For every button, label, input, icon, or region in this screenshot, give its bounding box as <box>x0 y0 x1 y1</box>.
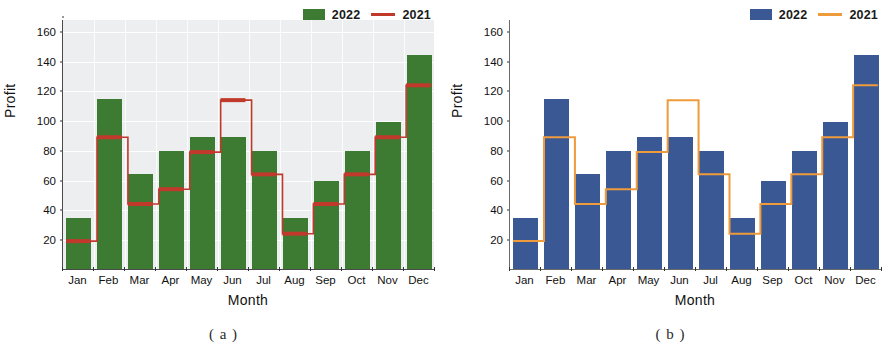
y-tick-label: 140 <box>484 56 503 68</box>
x-tick-mark <box>403 267 404 271</box>
x-tick-label: Apr <box>162 274 180 286</box>
x-tick-mark <box>819 267 820 271</box>
bar-series-2022 <box>510 20 881 269</box>
bar <box>283 218 308 269</box>
x-tick-mark <box>788 267 789 271</box>
x-tick-mark <box>540 267 541 271</box>
x-tick-label: Feb <box>546 274 566 286</box>
bar <box>823 122 848 269</box>
bar <box>221 137 246 269</box>
bar <box>376 122 401 269</box>
x-tick-mark <box>571 267 572 271</box>
x-axis-ticks: JanFebMarAprMayJunJulAugSepOctNovDec <box>509 272 881 292</box>
x-tick-mark <box>310 267 311 271</box>
bar <box>730 218 755 269</box>
y-tick-label: 60 <box>490 175 503 187</box>
y-tick-label: 80 <box>43 145 56 157</box>
x-tick-label: Oct <box>795 274 813 286</box>
y-tick-label: 120 <box>37 85 56 97</box>
x-tick-label: Mar <box>577 274 597 286</box>
y-tick-label: 20 <box>43 234 56 246</box>
x-tick-label: Jan <box>515 274 534 286</box>
x-tick-label: May <box>191 274 213 286</box>
x-tick-label: Jan <box>68 274 87 286</box>
y-tick-label: 160 <box>37 26 56 38</box>
x-tick-mark <box>372 267 373 271</box>
bar <box>637 137 662 269</box>
bar-series-2022 <box>63 20 434 269</box>
x-tick-mark <box>850 267 851 271</box>
x-tick-label: Sep <box>762 274 782 286</box>
x-tick-mark <box>757 267 758 271</box>
x-tick-label: Jul <box>703 274 718 286</box>
bar <box>513 218 538 269</box>
bar <box>792 151 817 269</box>
x-tick-label: Dec <box>408 274 428 286</box>
bar <box>699 151 724 269</box>
x-tick-mark <box>434 267 435 271</box>
y-axis-ticks: 20406080100120140160 <box>465 20 507 270</box>
x-tick-mark <box>881 267 882 271</box>
x-tick-mark <box>62 267 63 271</box>
x-tick-label: Dec <box>855 274 875 286</box>
bar <box>128 174 153 269</box>
bar <box>345 151 370 269</box>
x-tick-label: Jul <box>256 274 271 286</box>
x-tick-mark <box>124 267 125 271</box>
bar <box>761 181 786 269</box>
y-tick-label: 160 <box>484 26 503 38</box>
subfigure-caption-b: ( b ) <box>447 326 894 343</box>
x-tick-mark <box>726 267 727 271</box>
x-tick-label: Sep <box>315 274 335 286</box>
y-axis-label: Profit <box>449 84 465 118</box>
x-tick-label: Mar <box>130 274 150 286</box>
y-tick-label: 100 <box>37 115 56 127</box>
figure-container: 2022 2021 Profit 20406080100120140160 Ja… <box>0 0 894 361</box>
bar <box>854 55 879 269</box>
x-tick-mark <box>186 267 187 271</box>
x-tick-mark <box>664 267 665 271</box>
y-tick-label: 40 <box>43 204 56 216</box>
x-tick-mark <box>217 267 218 271</box>
y-tick-label: 20 <box>490 234 503 246</box>
x-tick-label: Nov <box>377 274 397 286</box>
x-tick-label: Jun <box>223 274 242 286</box>
x-tick-label: Aug <box>284 274 304 286</box>
y-tick-label: 80 <box>490 145 503 157</box>
y-tick-label: 140 <box>37 56 56 68</box>
bar <box>544 99 569 269</box>
bar <box>66 218 91 269</box>
subfigure-caption-a: ( a ) <box>0 326 447 343</box>
bar <box>668 137 693 269</box>
plot-area <box>62 20 434 270</box>
plot-area <box>509 20 881 270</box>
y-axis-ticks: 20406080100120140160 <box>18 20 60 270</box>
bar <box>575 174 600 269</box>
bar <box>159 151 184 269</box>
y-tick-label: 100 <box>484 115 503 127</box>
y-minor-tick-mark <box>62 17 64 18</box>
x-tick-mark <box>633 267 634 271</box>
x-tick-mark <box>248 267 249 271</box>
x-tick-mark <box>155 267 156 271</box>
x-tick-mark <box>602 267 603 271</box>
x-tick-mark <box>93 267 94 271</box>
plot-wrapper-b: Profit 20406080100120140160 JanFebMarApr… <box>447 0 894 361</box>
chart-panel-b: 2022 2021 Profit 20406080100120140160 Ja… <box>447 0 894 361</box>
x-tick-label: Nov <box>824 274 844 286</box>
x-tick-mark <box>341 267 342 271</box>
x-tick-mark <box>279 267 280 271</box>
plot-wrapper-a: Profit 20406080100120140160 JanFebMarApr… <box>0 0 447 361</box>
x-tick-label: Feb <box>99 274 119 286</box>
x-tick-label: May <box>638 274 660 286</box>
y-tick-label: 60 <box>43 175 56 187</box>
bar <box>190 137 215 269</box>
bar <box>252 151 277 269</box>
bar <box>606 151 631 269</box>
bar <box>407 55 432 269</box>
bar <box>97 99 122 269</box>
chart-panel-a: 2022 2021 Profit 20406080100120140160 Ja… <box>0 0 447 361</box>
x-axis-ticks: JanFebMarAprMayJunJulAugSepOctNovDec <box>62 272 434 292</box>
x-tick-mark <box>509 267 510 271</box>
y-tick-label: 120 <box>484 85 503 97</box>
